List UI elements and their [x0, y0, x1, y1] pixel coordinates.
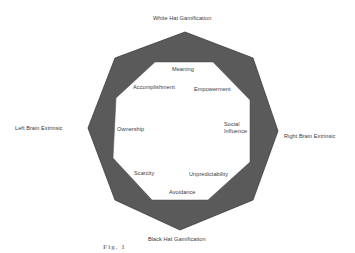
drive-ownership: Ownership — [117, 126, 144, 133]
axis-label-left: Left Brain Extrinsic — [15, 125, 63, 132]
drive-social-influence: Social Influence — [224, 121, 247, 135]
axis-label-top: White Hat Gamification — [153, 15, 211, 22]
drive-avoidance: Avoidance — [169, 189, 195, 196]
drive-empowerment: Empowerment — [194, 86, 231, 93]
axis-label-bottom: Black Hat Gamification — [148, 236, 206, 243]
figure-caption-fragment: Fig. 1 — [103, 243, 126, 251]
drive-social-influence-line2: Influence — [224, 128, 247, 134]
drive-unpredictability: Unpredictability — [189, 171, 228, 178]
drive-social-influence-line1: Social — [224, 121, 240, 127]
drive-meaning: Meaning — [172, 66, 194, 73]
axis-label-right: Right Brain Extrinsic — [284, 133, 335, 140]
drive-accomplishment: Accomplishment — [133, 84, 175, 91]
drive-scarcity: Scarcity — [134, 170, 154, 177]
